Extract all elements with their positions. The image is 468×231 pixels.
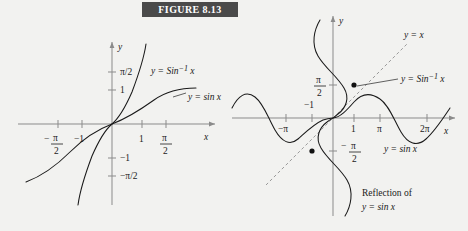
right-ytick-neg-pi-num: π	[351, 141, 356, 151]
right-sin-curve	[232, 94, 450, 143]
identity-line	[266, 43, 408, 185]
left-axis-y-label: y	[117, 42, 123, 52]
upper-endpoint-dot	[351, 82, 356, 87]
right-xtick-neg-one: −1	[304, 100, 314, 110]
right-xtick-2pi: 2π	[420, 124, 430, 134]
left-xtick-neg-pi-num: π	[53, 133, 58, 143]
left-arcsin-label-tail: x	[188, 66, 195, 76]
right-axes	[232, 16, 455, 216]
left-xtick-neg-pi-sign: −	[44, 134, 49, 144]
left-arcsin-label-sup: −1	[179, 64, 188, 73]
right-ytick-pi-num: π	[316, 75, 321, 85]
left-arcsin-label: y = Sin−1 x	[150, 64, 195, 76]
right-arcsin-tail: x	[438, 74, 445, 84]
right-ytick-pi-over-2: π 2	[314, 75, 326, 98]
reflection-annotation-line2: y = sin x	[361, 202, 396, 212]
right-ytick-neg-pi-over-2: − π 2	[341, 141, 361, 164]
right-axis-y-label: y	[338, 16, 344, 26]
left-xtick-neg-pi-den: 2	[54, 146, 59, 156]
left-ytick-pi-over-2: π/2	[120, 67, 132, 77]
left-arcsin-label-head: y = Sin	[150, 66, 179, 76]
figure-container: FIGURE 8.13 π/2 1 −1 −π/2	[0, 0, 468, 231]
identity-line-label: y = x	[403, 30, 424, 40]
left-ytick-neg-one: −1	[120, 153, 130, 163]
right-arcsin-head: y = Sin	[400, 74, 429, 84]
svg-text:y = Sin−1 x: y = Sin−1 x	[150, 64, 195, 76]
left-axis-x-label: x	[203, 132, 209, 142]
right-arcsin-label: y = Sin−1 x	[400, 72, 445, 84]
left-sin-label: y = sin x	[187, 92, 222, 102]
right-plot: −π −1 1 π 2π π 2 − π 2 x y y = x y = Sin…	[228, 0, 468, 231]
right-xtick-one: 1	[351, 124, 356, 134]
arcsin-leader-line	[357, 79, 398, 86]
lower-endpoint-dot	[309, 148, 314, 153]
left-xtick-pi-num: π	[162, 133, 167, 143]
left-ytick-neg-pi-over-2: −π/2	[120, 171, 138, 181]
left-xtick-neg-one: −1	[74, 134, 84, 144]
left-plot: π/2 1 −1 −π/2 − π 2 −1 1 π 2 x y y = Sin…	[0, 0, 234, 231]
right-sin-label: y = sin x	[383, 144, 418, 154]
right-xtick-pi: π	[377, 124, 382, 134]
left-sin-curve	[26, 88, 196, 182]
left-ytick-one: 1	[120, 85, 125, 95]
right-ytick-neg-sign: −	[341, 141, 346, 151]
right-arcsin-sup: −1	[429, 72, 438, 81]
right-ytick-neg-pi-den: 2	[352, 154, 357, 164]
left-xtick-pi-over-2: π 2	[160, 133, 172, 156]
left-xtick-pi-den: 2	[163, 146, 168, 156]
right-ytick-pi-den: 2	[317, 88, 322, 98]
left-xtick-one: 1	[139, 134, 144, 144]
right-axis-x-label: x	[443, 126, 449, 136]
right-xtick-neg-pi: −π	[278, 124, 288, 134]
reflection-annotation-line1: Reflection of	[362, 188, 413, 198]
left-xtick-neg-pi-over-2: − π 2	[44, 133, 63, 156]
